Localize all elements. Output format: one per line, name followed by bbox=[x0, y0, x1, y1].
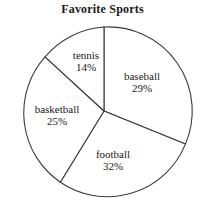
pie-label-football-name: football bbox=[96, 148, 130, 160]
pie-label-football-value: 32% bbox=[96, 160, 130, 172]
pie-label-tennis: tennis 14% bbox=[73, 49, 99, 73]
pie-label-baseball-value: 29% bbox=[124, 82, 160, 94]
pie-label-tennis-value: 14% bbox=[73, 61, 99, 73]
pie-label-baseball-name: baseball bbox=[124, 70, 160, 82]
pie-label-basketball-name: basketball bbox=[35, 103, 80, 115]
chart-container: Favorite Sports tennis 14% baseball 29% … bbox=[0, 0, 205, 210]
pie-label-tennis-name: tennis bbox=[73, 49, 99, 61]
pie-label-football: football 32% bbox=[96, 148, 130, 172]
pie-label-basketball-value: 25% bbox=[35, 115, 80, 127]
pie-label-baseball: baseball 29% bbox=[124, 70, 160, 94]
pie-label-basketball: basketball 25% bbox=[35, 103, 80, 127]
pie-chart-graphic bbox=[0, 0, 205, 210]
